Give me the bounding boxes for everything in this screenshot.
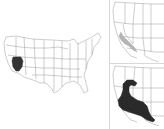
panel-divider-vertical <box>109 0 110 129</box>
range-highlight-light <box>119 32 137 52</box>
main-us-map <box>2 31 106 97</box>
inset-map-top <box>111 0 164 62</box>
inset-map-bottom <box>111 64 164 129</box>
range-highlight-dark <box>118 80 155 122</box>
range-highlight-main <box>12 57 23 71</box>
